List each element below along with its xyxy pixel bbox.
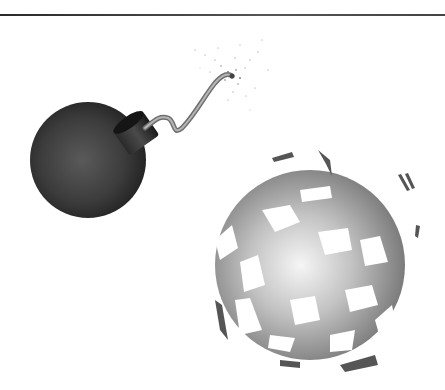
shattered-sphere — [215, 150, 420, 372]
bomb — [30, 102, 159, 218]
illustration — [0, 0, 445, 390]
